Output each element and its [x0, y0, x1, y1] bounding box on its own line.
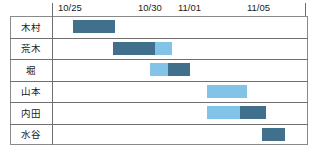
bar-segment-2-0[interactable] — [150, 63, 168, 76]
bar-track-4 — [53, 102, 307, 124]
bar-track-3 — [53, 81, 307, 103]
axis-tick-label-2: 10/30 — [138, 1, 162, 14]
row-label-0: 木村 — [10, 16, 52, 38]
bar-segment-4-1[interactable] — [240, 106, 266, 119]
bar-track-0 — [53, 16, 307, 38]
bar-segment-2-1[interactable] — [168, 63, 190, 76]
date-axis-header: 10/25 10/30 11/01 11/05 — [10, 0, 308, 16]
bar-track-2 — [53, 59, 307, 81]
row-label-4: 内田 — [10, 102, 52, 124]
row-label-5: 水谷 — [10, 124, 52, 146]
axis-left-rule — [52, 3, 53, 16]
bar-track-1 — [53, 38, 307, 60]
bar-segment-1-0[interactable] — [113, 42, 155, 55]
bar-segment-3-0[interactable] — [207, 85, 247, 98]
axis-right-rule — [305, 3, 306, 16]
row-label-1: 荒木 — [10, 38, 52, 60]
axis-tick-label-4: 11/05 — [247, 1, 270, 14]
gantt-chart: 10/25 10/30 11/01 11/05 木村 荒木 堀 山本 内田 水谷 — [0, 0, 318, 153]
bar-segment-5-0[interactable] — [262, 128, 285, 141]
bar-track-5 — [53, 124, 307, 146]
bar-segment-0-0[interactable] — [73, 20, 115, 33]
bar-segment-1-1[interactable] — [155, 42, 172, 55]
axis-tick-label-1: 10/25 — [58, 1, 82, 14]
row-label-3: 山本 — [10, 81, 52, 103]
bar-segment-4-0[interactable] — [207, 106, 240, 119]
row-label-2: 堀 — [10, 59, 52, 81]
axis-tick-label-3: 11/01 — [178, 1, 201, 14]
